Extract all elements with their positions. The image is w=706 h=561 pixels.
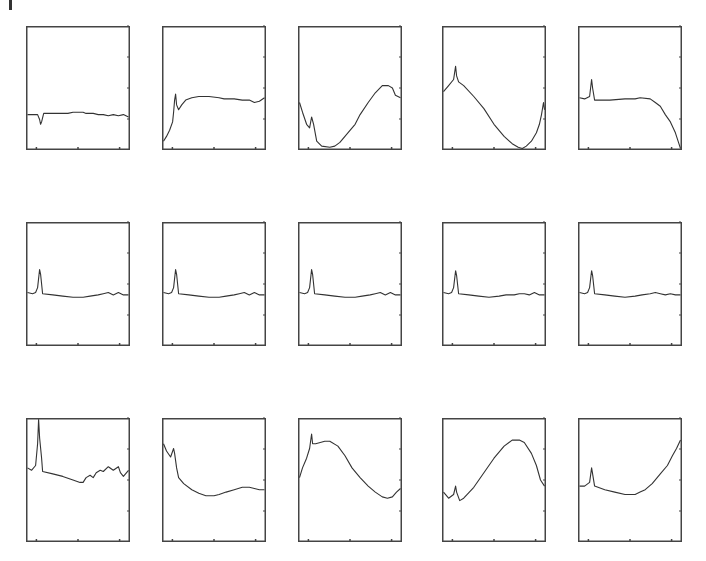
- data-line: [444, 440, 545, 501]
- plot-frame: [579, 27, 682, 150]
- plot-frame: [443, 27, 546, 150]
- plot-frame: [163, 27, 266, 150]
- panel-label-fragment: [9, 0, 12, 10]
- plot-panel-r2-c4: [442, 222, 546, 346]
- data-line: [580, 271, 681, 298]
- data-line: [28, 270, 129, 298]
- plot-frame: [27, 419, 130, 542]
- data-line: [164, 270, 265, 298]
- plot-panel-r2-c5: [578, 222, 682, 346]
- data-line: [300, 270, 401, 298]
- data-line: [164, 94, 265, 141]
- plot-frame: [443, 223, 546, 346]
- plot-panel-r3-c1: [26, 418, 130, 542]
- plot-frame: [443, 419, 546, 542]
- plot-frame: [163, 419, 266, 542]
- plot-panel-r1-c2: [162, 26, 266, 150]
- plot-frame: [299, 419, 402, 542]
- plot-panel-r3-c5: [578, 418, 682, 542]
- plot-panel-r3-c4: [442, 418, 546, 542]
- data-line: [580, 80, 681, 149]
- plot-panel-r3-c2: [162, 418, 266, 542]
- data-line: [300, 434, 401, 498]
- data-line: [28, 420, 129, 483]
- plot-panel-r1-c1: [26, 26, 130, 150]
- plot-panel-r2-c1: [26, 222, 130, 346]
- data-line: [580, 440, 681, 494]
- data-line: [444, 66, 545, 148]
- plot-panel-r1-c4: [442, 26, 546, 150]
- data-line: [164, 444, 265, 496]
- plot-panel-r1-c3: [298, 26, 402, 150]
- data-line: [300, 86, 401, 148]
- plot-frame: [27, 27, 130, 150]
- plot-panel-r2-c2: [162, 222, 266, 346]
- plot-panel-r2-c3: [298, 222, 402, 346]
- plot-frame: [579, 223, 682, 346]
- data-line: [28, 112, 129, 124]
- data-line: [444, 271, 545, 298]
- plot-panel-r1-c5: [578, 26, 682, 150]
- plot-panel-r3-c3: [298, 418, 402, 542]
